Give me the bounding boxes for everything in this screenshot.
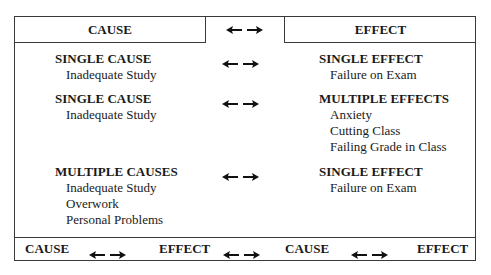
chain-cause: CAUSE — [285, 241, 329, 257]
cause-title: MULTIPLE CAUSES — [55, 164, 178, 180]
cause-item: Personal Problems — [55, 212, 178, 228]
effect-item: Cutting Class — [319, 123, 449, 139]
cause-item: Inadequate Study — [55, 180, 178, 196]
effect-header: EFFECT — [284, 17, 476, 43]
chain-cause: CAUSE — [25, 241, 69, 257]
cause-block: SINGLE CAUSE Inadequate Study — [55, 91, 157, 123]
header-connector — [206, 17, 284, 43]
cause-header-label: CAUSE — [88, 22, 132, 38]
cause-effect-diagram: CAUSE EFFECT SINGLE CAUSE Inadequate Stu… — [14, 16, 476, 261]
effect-item: Anxiety — [319, 107, 449, 123]
effect-item: Failure on Exam — [319, 67, 423, 83]
effect-block: SINGLE EFFECT Failure on Exam — [319, 51, 423, 83]
effect-block: MULTIPLE EFFECTS Anxiety Cutting Class F… — [319, 91, 449, 155]
cause-item: Inadequate Study — [55, 107, 157, 123]
double-arrow-icon — [89, 245, 127, 263]
effect-block: SINGLE EFFECT Failure on Exam — [319, 164, 423, 196]
causal-chain-footer: CAUSE EFFECT CAUSE EFFECT — [15, 237, 475, 260]
double-arrow-icon — [222, 94, 260, 112]
cause-block: SINGLE CAUSE Inadequate Study — [55, 51, 157, 83]
double-arrow-icon — [351, 245, 389, 263]
chain-effect: EFFECT — [417, 241, 468, 257]
effect-title: SINGLE EFFECT — [319, 164, 423, 180]
double-arrow-icon — [223, 245, 261, 263]
double-arrow-icon — [222, 167, 260, 185]
effect-title: MULTIPLE EFFECTS — [319, 91, 449, 107]
effect-header-label: EFFECT — [355, 22, 406, 38]
cause-title: SINGLE CAUSE — [55, 51, 157, 67]
cause-title: SINGLE CAUSE — [55, 91, 157, 107]
cause-header: CAUSE — [15, 17, 206, 43]
cause-item: Inadequate Study — [55, 67, 157, 83]
effect-item: Failure on Exam — [319, 180, 423, 196]
cause-item: Overwork — [55, 196, 178, 212]
double-arrow-icon — [222, 54, 260, 72]
effect-title: SINGLE EFFECT — [319, 51, 423, 67]
chain-effect: EFFECT — [159, 241, 210, 257]
effect-item: Failing Grade in Class — [319, 139, 449, 155]
cause-block: MULTIPLE CAUSES Inadequate Study Overwor… — [55, 164, 178, 228]
double-arrow-icon — [226, 26, 264, 34]
